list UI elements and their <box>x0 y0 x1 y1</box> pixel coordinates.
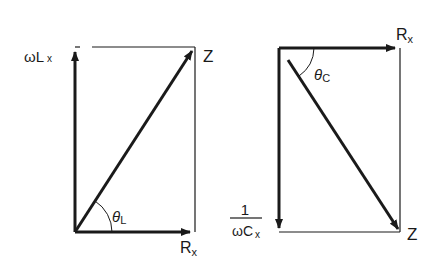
reactance-numerator: 1 <box>241 201 249 218</box>
resistance-label: Rx <box>396 26 414 45</box>
capacitive-impedance-diagram: Rx θC 1 ωCx Z <box>230 26 417 244</box>
impedance-label: Z <box>203 47 213 66</box>
angle-label: θC <box>314 66 330 84</box>
angle-arc <box>95 201 112 232</box>
impedance-diagrams: ωLx Z Rx θL Rx θC 1 ωCx Z <box>0 0 433 268</box>
reactance-denominator: ωCx <box>232 223 260 240</box>
resistance-label: Rx <box>180 239 198 258</box>
impedance-vector <box>288 60 398 229</box>
angle-label: θL <box>112 208 126 226</box>
impedance-vector <box>75 51 192 232</box>
inductive-impedance-diagram: ωLx Z Rx θL <box>24 47 213 258</box>
impedance-label: Z <box>407 225 417 244</box>
angle-arc <box>299 48 314 76</box>
reactance-label: ωLx <box>24 48 52 65</box>
